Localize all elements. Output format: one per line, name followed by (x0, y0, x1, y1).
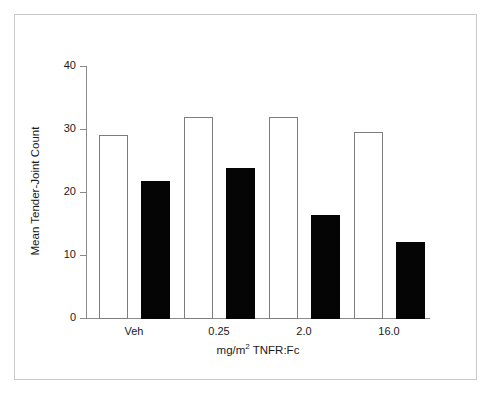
y-tick-label-40-text: 40 (50, 60, 76, 71)
y-tick-label-0-text: 0 (50, 312, 76, 323)
y-tick-label-0: 0 (50, 312, 76, 324)
bar-chart: 0 10 20 30 40 Veh 0.25 2.0 16.0 Mean Ten… (0, 0, 493, 397)
bar-open-16-0 (354, 132, 383, 319)
x-tick-label-16-0: 16.0 (354, 326, 424, 337)
x-tick-label-veh: Veh (99, 326, 169, 337)
bar-filled-veh (141, 181, 170, 319)
y-tick-mark-30 (80, 129, 86, 130)
y-tick-label-10-text: 10 (50, 249, 76, 260)
x-axis-title-suffix: TNFR:Fc (250, 344, 300, 356)
y-tick-label-10: 10 (50, 249, 76, 261)
y-tick-mark-20 (80, 192, 86, 193)
x-axis-title: mg/m2 TNFR:Fc (86, 344, 430, 356)
y-tick-label-30-text: 30 (50, 123, 76, 134)
bar-filled-0-25 (226, 168, 255, 319)
y-tick-label-30: 30 (50, 123, 76, 135)
x-tick-label-2-0: 2.0 (269, 326, 339, 337)
bar-filled-16-0 (396, 242, 425, 319)
y-axis-line (86, 66, 87, 319)
x-tick-label-0-25: 0.25 (184, 326, 254, 337)
y-tick-label-20: 20 (50, 186, 76, 198)
y-axis-title: Mean Tender-Joint Count (29, 106, 41, 276)
y-tick-mark-40 (80, 66, 86, 67)
bar-filled-2-0 (311, 215, 340, 319)
bar-open-2-0 (269, 117, 298, 319)
y-tick-mark-10 (80, 255, 86, 256)
y-tick-label-20-text: 20 (50, 186, 76, 197)
x-axis-title-prefix: mg/m (217, 344, 246, 356)
bar-open-veh (99, 135, 128, 319)
y-tick-label-40: 40 (50, 60, 76, 72)
y-tick-mark-0 (80, 318, 86, 319)
bar-open-0-25 (184, 117, 213, 319)
